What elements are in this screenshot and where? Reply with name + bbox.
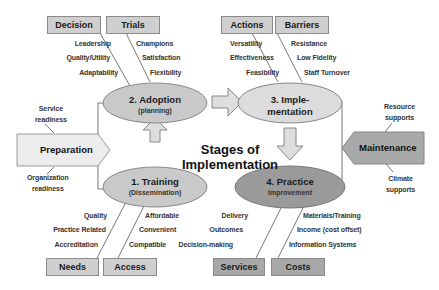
access-item: Affordable — [145, 212, 179, 219]
trials-item: Champions — [136, 40, 173, 47]
organization-readiness-note: Organization readiness — [27, 172, 69, 194]
title-line-1: Stages of — [201, 142, 260, 157]
factor-box-services: Services — [213, 258, 265, 276]
needs-item: Accreditation — [55, 241, 98, 248]
note-line: supports — [386, 186, 415, 193]
stage-title: 3. Imple- — [230, 94, 350, 105]
stage-implementation-text: 3. Imple- mentation — [230, 94, 350, 117]
decision-item: Quality/Utility — [66, 54, 110, 61]
factor-box-costs: Costs — [271, 258, 325, 276]
factor-box-barriers: Barriers — [275, 16, 329, 34]
stage-subtitle: mentation — [230, 106, 350, 117]
access-item: Compatible — [129, 241, 166, 248]
access-item: Convenient — [139, 226, 176, 233]
barriers-item: Staff Turnover — [304, 69, 350, 76]
stage-subtitle: (Dissemination) — [95, 189, 215, 196]
costs-item: Income (cost offset) — [297, 226, 362, 233]
needs-item: Quality — [84, 212, 107, 219]
title-line-2: Implementation — [182, 157, 278, 172]
resource-supports-note: Resource supports — [384, 101, 415, 123]
stage-title: 4. Practice — [230, 176, 350, 187]
preparation-label: Preparation — [40, 144, 93, 155]
stage-adoption-text: 2. Adoption (planning) — [95, 94, 215, 114]
decision-item: Adaptability — [79, 69, 118, 76]
note-line: readiness — [32, 185, 64, 192]
services-item: Delivery — [222, 212, 248, 219]
stage-training-text: 1. Training (Dissemination) — [95, 176, 215, 196]
decision-item: Leadership — [75, 40, 111, 47]
needs-item: Practice Related — [53, 226, 106, 233]
factor-box-actions: Actions — [221, 16, 273, 34]
actions-item: Versatility — [230, 40, 262, 47]
factor-box-needs-label: Needs — [59, 262, 86, 272]
connector-climate-supports — [386, 164, 393, 172]
note-line: Climate — [388, 175, 413, 182]
stage-title: 2. Adoption — [95, 94, 215, 105]
factor-box-decision: Decision — [47, 16, 101, 34]
factor-box-decision-label: Decision — [55, 20, 93, 30]
factor-box-needs: Needs — [46, 258, 99, 276]
note-line: supports — [385, 114, 414, 121]
barriers-item: Resistance — [291, 40, 327, 47]
factor-box-trials-label: Trials — [121, 20, 145, 30]
stage-title: 1. Training — [95, 176, 215, 187]
trials-item: Satisfaction — [142, 54, 180, 61]
factor-box-access: Access — [103, 258, 157, 276]
service-readiness-note: Service readiness — [35, 103, 67, 125]
connector-service-readiness — [45, 124, 54, 133]
diagram-title: Stages of Implementation — [170, 142, 290, 172]
factor-box-trials: Trials — [106, 16, 160, 34]
factor-box-services-label: Services — [220, 262, 257, 272]
costs-item: Information Systems — [289, 241, 356, 248]
note-line: Organization — [27, 174, 69, 181]
note-line: Service — [39, 105, 63, 112]
maintenance-label: Maintenance — [359, 142, 417, 153]
factor-box-access-label: Access — [114, 262, 146, 272]
note-line: readiness — [35, 116, 67, 123]
actions-item: Effectiveness — [230, 54, 274, 61]
connector-services — [256, 206, 282, 258]
stage-subtitle: (planning) — [95, 107, 215, 114]
factor-box-actions-label: Actions — [230, 20, 263, 30]
costs-item: Materials/Training — [303, 212, 361, 219]
services-item: Outcomes — [210, 226, 243, 233]
factor-box-costs-label: Costs — [285, 262, 310, 272]
trials-item: Flexibility — [150, 69, 181, 76]
note-line: Resource — [384, 103, 415, 110]
connector-resource-supports — [385, 123, 392, 132]
stage-subtitle: Improvement — [230, 189, 350, 196]
services-item: Decision-making — [178, 241, 233, 248]
actions-item: Feasibility — [246, 69, 279, 76]
barriers-item: Low Fidelity — [297, 54, 336, 61]
climate-supports-note: Climate supports — [386, 173, 415, 195]
stage-practice-text: 4. Practice Improvement — [230, 176, 350, 196]
factor-box-barriers-label: Barriers — [285, 20, 320, 30]
